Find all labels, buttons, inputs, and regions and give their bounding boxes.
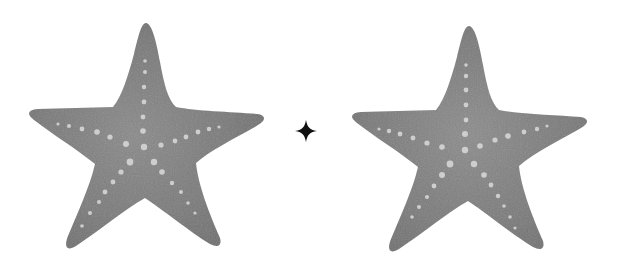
sparkle-icon: [295, 120, 317, 142]
illustration-canvas: [0, 0, 618, 265]
starfish-right: [352, 26, 587, 251]
starfish-body: [29, 23, 264, 248]
illustration-svg: [0, 0, 618, 265]
starfish-left: [29, 23, 264, 248]
starfish-body: [352, 26, 587, 251]
